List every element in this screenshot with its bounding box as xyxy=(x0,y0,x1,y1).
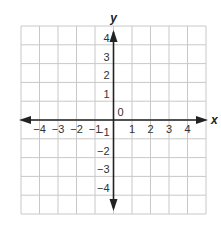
y-tick-label: −4 xyxy=(97,182,110,194)
axes xyxy=(19,30,208,211)
y-tick-label: 3 xyxy=(103,51,109,63)
x-tick-labels: −4−3−2−11234 xyxy=(33,123,190,135)
y-tick-label: 2 xyxy=(103,69,109,81)
y-axis-label: y xyxy=(109,11,118,25)
x-tick-label: 4 xyxy=(184,123,190,135)
y-tick-label: −3 xyxy=(97,163,110,175)
x-tick-label: −4 xyxy=(33,123,46,135)
x-tick-label: −2 xyxy=(70,123,83,135)
x-tick-label: 3 xyxy=(166,123,172,135)
y-tick-labels: 4321−1−2−3−4 xyxy=(97,32,110,194)
origin-label: 0 xyxy=(118,106,124,118)
x-tick-label: 1 xyxy=(129,123,135,135)
y-tick-label: 1 xyxy=(103,88,109,100)
y-tick-label: 4 xyxy=(103,32,109,44)
x-tick-label: 2 xyxy=(147,123,153,135)
x-tick-label: −3 xyxy=(52,123,65,135)
y-axis-down-arrow-icon xyxy=(110,199,118,211)
coordinate-plane: −4−3−2−11234 4321−1−2−3−4 x y 0 xyxy=(0,0,221,229)
y-tick-label: −1 xyxy=(97,126,110,138)
x-axis-label: x xyxy=(210,113,219,127)
y-axis-up-arrow-icon xyxy=(110,30,118,42)
y-tick-label: −2 xyxy=(97,145,110,157)
